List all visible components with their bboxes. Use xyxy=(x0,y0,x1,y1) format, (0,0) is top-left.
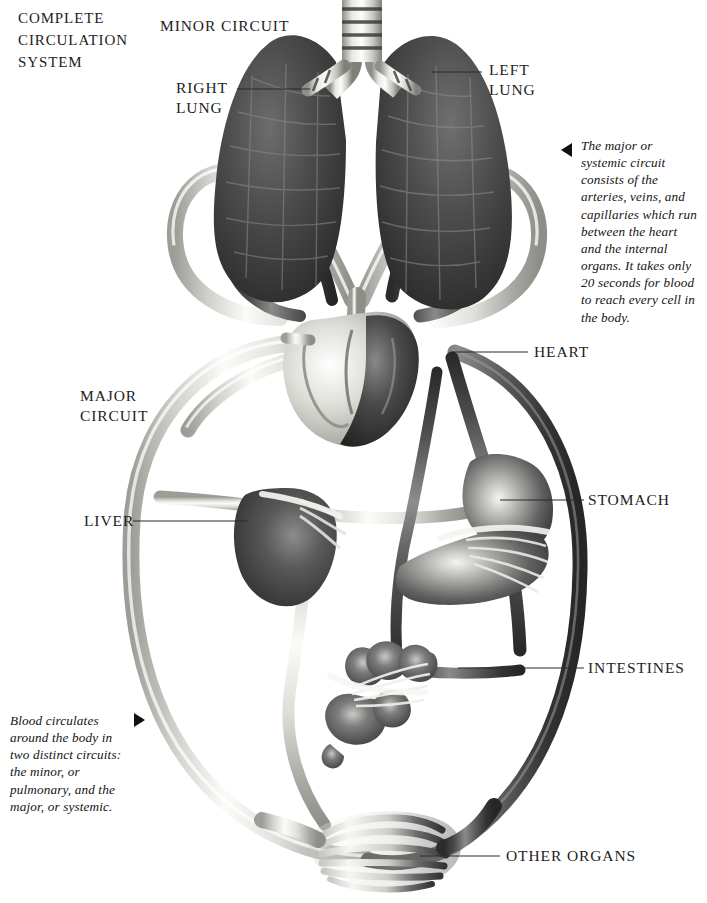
triangle-marker-right-icon xyxy=(134,713,145,727)
triangle-marker-left-icon xyxy=(561,143,572,157)
liver-organ xyxy=(234,488,346,606)
label-intestines: INTESTINES xyxy=(588,658,685,678)
label-stomach: STOMACH xyxy=(588,490,670,510)
label-left-lung: LEFT LUNG xyxy=(489,60,536,100)
label-heart: HEART xyxy=(534,342,589,362)
page-title: COMPLETE CIRCULATION SYSTEM xyxy=(18,8,128,73)
label-minor-circuit: MINOR CIRCUIT xyxy=(160,16,289,36)
label-liver: LIVER xyxy=(84,511,134,531)
caption-major-circuit: The major or systemic circuit consists o… xyxy=(581,137,699,326)
caption-two-circuits: Blood circulates around the body in two … xyxy=(10,712,126,815)
trachea xyxy=(308,0,416,92)
label-major-circuit: MAJOR CIRCUIT xyxy=(80,386,148,426)
intestines-organ xyxy=(322,641,438,768)
illustration-stage: COMPLETE CIRCULATION SYSTEM MINOR CIRCUI… xyxy=(0,0,707,903)
label-right-lung: RIGHT LUNG xyxy=(176,78,228,118)
label-other-organs: OTHER ORGANS xyxy=(506,846,636,866)
